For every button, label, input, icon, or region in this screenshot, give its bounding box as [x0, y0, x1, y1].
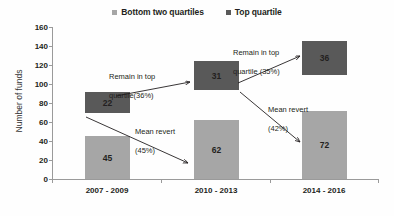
x-tick-label-2014-2016: 2014 - 2016 [303, 186, 346, 195]
bar-bottom-2010-2013[interactable]: 62 [194, 120, 239, 179]
y-tick-label: 60 [22, 118, 48, 127]
y-tick-label: 40 [22, 137, 48, 146]
bar-value-label: 72 [302, 140, 347, 150]
bar-value-label: 62 [194, 145, 239, 155]
bar-value-label: 36 [302, 53, 347, 63]
legend-item-bottom-two-quartiles[interactable]: Bottom two quartiles [112, 7, 204, 17]
y-axis-line [52, 27, 53, 179]
annotation-line: Remain in top [233, 48, 280, 58]
bar-bottom-2014-2016[interactable]: 72 [302, 111, 347, 179]
annotation-remain-top-2: Remain in top quartile (35%) [233, 38, 280, 86]
x-axis-line [52, 179, 378, 180]
annotation-line: Mean revert [135, 127, 175, 137]
x-tick-mark [52, 179, 53, 183]
y-tick-label: 160 [22, 23, 48, 32]
x-tick-mark [161, 179, 162, 183]
x-tick-mark [270, 179, 271, 183]
y-tick-label: 140 [22, 42, 48, 51]
bar-value-label: 45 [85, 153, 130, 163]
flow-arrows [0, 0, 394, 216]
annotation-line: quartile(36%) [109, 91, 155, 101]
legend-label-bottom-two-quartiles: Bottom two quartiles [121, 7, 204, 17]
x-tick-label-2010-2013: 2010 - 2013 [195, 186, 238, 195]
bar-bottom-2007-2009[interactable]: 45 [85, 136, 130, 179]
square-marker-icon [112, 10, 117, 15]
legend-item-top-quartile[interactable]: Top quartile [226, 7, 282, 17]
y-tick-label: 100 [22, 80, 48, 89]
y-tick-label: 0 [22, 175, 48, 184]
annotation-line: quartile (35%) [233, 67, 280, 77]
y-tick-label: 20 [22, 156, 48, 165]
annotation-mean-revert-1: Mean revert (45%) [135, 117, 175, 165]
square-marker-icon [226, 10, 231, 15]
annotation-line: (45%) [135, 146, 175, 156]
annotation-line: (42%) [268, 124, 308, 134]
chart-legend: Bottom two quartiles Top quartile [0, 7, 394, 17]
legend-label-top-quartile: Top quartile [235, 7, 282, 17]
x-tick-label-2007-2009: 2007 - 2009 [86, 186, 129, 195]
y-tick-label: 80 [22, 99, 48, 108]
y-tick-label: 120 [22, 61, 48, 70]
bar-top-2014-2016[interactable]: 36 [302, 41, 347, 75]
annotation-line: Remain in top [109, 72, 155, 82]
x-tick-mark [378, 179, 379, 183]
y-axis-ticks: 0 20 40 60 80 100 120 140 160 [20, 0, 48, 216]
annotation-mean-revert-2: Mean revert (42%) [268, 95, 308, 143]
annotation-remain-top-1: Remain in top quartile(36%) [109, 62, 155, 110]
chart-container: Bottom two quartiles Top quartile Number… [0, 0, 394, 216]
annotation-line: Mean revert [268, 105, 308, 115]
